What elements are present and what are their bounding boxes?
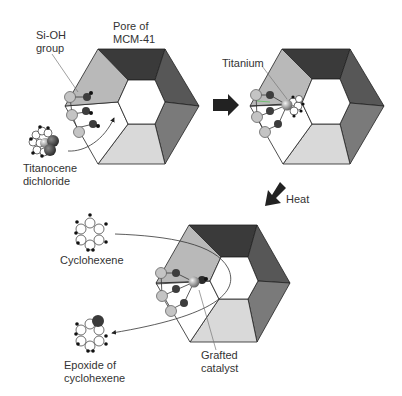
label-sioh-line2: group bbox=[36, 42, 64, 54]
oxygen-atom bbox=[89, 120, 97, 128]
mcm41-grafting-diagram: Si-OH group Pore of MCM-41 Titanocene di… bbox=[0, 0, 402, 396]
oxygen-atom bbox=[180, 299, 188, 307]
titanium-atom bbox=[189, 277, 200, 288]
hydrogen-atom bbox=[89, 111, 93, 115]
epoxide-molecule bbox=[74, 315, 108, 353]
label-epoxide-line1: Epoxide of bbox=[64, 359, 117, 371]
hydrogen-atom bbox=[89, 91, 93, 95]
oxygen-atom bbox=[172, 285, 180, 293]
oxygen-atom bbox=[82, 107, 90, 115]
silicon-atom bbox=[166, 306, 177, 317]
label-pore-line1: Pore of bbox=[113, 20, 149, 32]
epoxide-oxygen-atom bbox=[92, 315, 104, 327]
label-pore-line2: MCM-41 bbox=[113, 33, 155, 45]
silicon-atom bbox=[251, 90, 262, 101]
label-titanocene-line2: dichloride bbox=[23, 175, 70, 187]
silicon-atom bbox=[157, 291, 168, 302]
label-sioh-line1: Si-OH bbox=[36, 29, 66, 41]
pore-hexagon-3 bbox=[156, 225, 290, 342]
pore-opening bbox=[302, 79, 350, 124]
oxygen-atom bbox=[266, 91, 274, 99]
label-grafted-line2: catalyst bbox=[201, 362, 238, 374]
oxygen-atom bbox=[274, 120, 282, 128]
silicon-atom bbox=[65, 92, 76, 103]
cyclohexene-molecule bbox=[74, 213, 108, 252]
right-arrow-icon bbox=[213, 94, 239, 116]
oxygen-atom bbox=[172, 269, 180, 277]
label-epoxide-line2: cyclohexene bbox=[64, 372, 125, 384]
silicon-atom bbox=[156, 268, 167, 279]
sioh-leader-line bbox=[52, 54, 78, 92]
oxygen-atom bbox=[266, 107, 274, 115]
chlorine-atom bbox=[44, 144, 56, 156]
silicon-atom bbox=[67, 110, 78, 121]
titanium-atom bbox=[282, 100, 293, 111]
label-cyclohexene: Cyclohexene bbox=[60, 254, 124, 266]
silicon-atom bbox=[74, 127, 85, 138]
label-grafted-line1: Grafted bbox=[201, 349, 238, 361]
pore-opening bbox=[118, 80, 165, 124]
silicon-atom bbox=[260, 127, 271, 138]
titanocene-dichloride-molecule bbox=[29, 125, 59, 158]
label-titanocene-line1: Titanocene bbox=[23, 162, 77, 174]
pore-hexagon-2 bbox=[250, 49, 384, 164]
silicon-atom bbox=[252, 112, 263, 123]
heat-arrow-icon bbox=[265, 182, 286, 206]
label-heat: Heat bbox=[286, 193, 309, 205]
hydrogen-atom bbox=[96, 124, 100, 128]
label-titanium: Titanium bbox=[222, 57, 264, 69]
pore-hexagon-1 bbox=[65, 49, 199, 164]
